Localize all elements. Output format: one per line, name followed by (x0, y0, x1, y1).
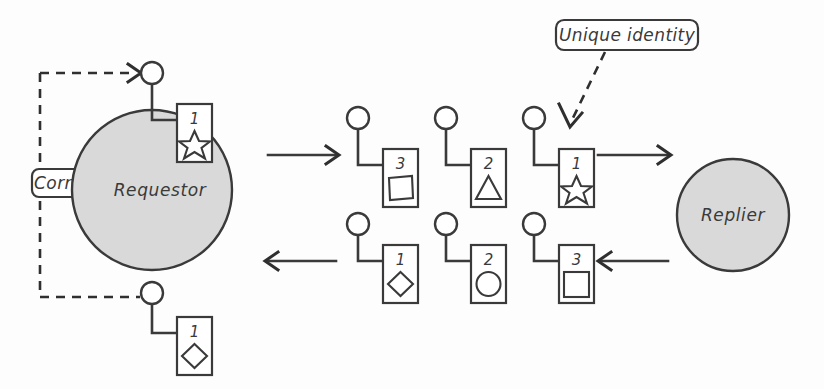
reply-message-3-port (523, 213, 545, 235)
unique-identity-pointer (572, 52, 605, 120)
requestor-in-card-number: 1 (190, 323, 200, 341)
request-message-2-connector (446, 128, 473, 165)
requestor-out-card-number: 1 (190, 110, 200, 128)
request-message-2-port (435, 107, 457, 129)
callout-unique-identity[interactable]: Unique identity (556, 20, 698, 127)
request-message-3-port (523, 107, 545, 129)
request-message-2[interactable]: 2 (435, 107, 506, 207)
reply-message-3-number: 3 (572, 251, 582, 269)
requestor-in-port-circle (141, 282, 163, 304)
correlation-arrowhead (128, 64, 141, 82)
reply-message-2-port (435, 213, 457, 235)
reply-message-1[interactable]: 1 (347, 213, 418, 303)
reply-message-1-number: 1 (396, 251, 406, 269)
reply-message-3[interactable]: 3 (523, 213, 594, 303)
reply-message-1-connector (358, 234, 385, 261)
reply-message-2[interactable]: 2 (435, 213, 506, 303)
reply-message-3-connector (534, 234, 561, 261)
request-arrow-left (268, 146, 339, 164)
requestor-label: Requestor (114, 180, 207, 200)
requestor-out-port-circle (141, 62, 163, 84)
requestor-in-port[interactable]: 1 (141, 282, 212, 375)
request-message-3-number: 1 (572, 155, 582, 173)
request-message-1-number: 3 (396, 155, 406, 173)
reply-arrow-right (598, 252, 668, 270)
requestor-in-connector (152, 303, 179, 333)
unique-identity-label: Unique identity (559, 25, 696, 45)
reply-message-2-connector (446, 234, 473, 261)
diagram-canvas: Correlation Requestor 1 1 (0, 0, 824, 389)
request-message-3-connector (534, 128, 561, 165)
request-message-1[interactable]: 3 (347, 107, 418, 207)
request-message-1-connector (358, 128, 385, 165)
request-arrow-right (598, 146, 671, 164)
reply-arrow-left (265, 252, 336, 270)
reply-message-1-port (347, 213, 369, 235)
circle-glyph (477, 272, 501, 296)
replier-label: Replier (701, 205, 766, 225)
request-message-1-port (347, 107, 369, 129)
diagram-svg: Correlation Requestor 1 1 (0, 0, 824, 389)
square-glyph (564, 272, 589, 297)
square-glyph (389, 176, 413, 200)
node-replier[interactable]: Replier (677, 159, 789, 271)
request-message-3[interactable]: 1 (523, 107, 594, 207)
unique-identity-arrowhead (559, 104, 582, 127)
request-message-2-number: 2 (484, 155, 494, 173)
reply-message-2-number: 2 (484, 251, 494, 269)
